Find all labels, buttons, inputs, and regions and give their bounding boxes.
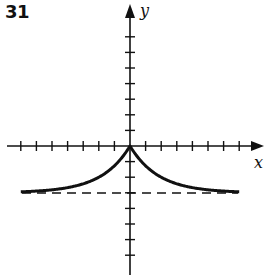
graph: x y: [0, 0, 266, 280]
x-axis-arrow-icon: [251, 141, 264, 151]
y-axis-label: y: [139, 1, 150, 20]
y-axis: [125, 4, 135, 275]
y-axis-arrow-icon: [125, 4, 135, 18]
x-axis: [7, 141, 264, 151]
x-axis-label: x: [254, 153, 263, 172]
